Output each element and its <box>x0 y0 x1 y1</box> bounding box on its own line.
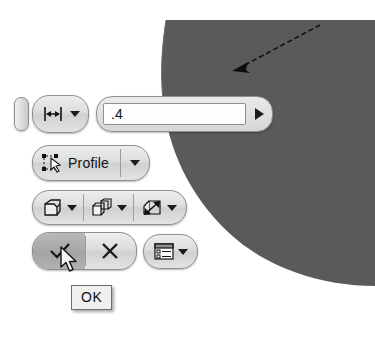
select-profile-icon <box>40 152 64 174</box>
more-options-button[interactable] <box>144 235 197 268</box>
distance-icon <box>41 104 67 124</box>
distance-value-field[interactable]: .4 <box>96 96 273 132</box>
direction-flip-button[interactable] <box>134 191 186 224</box>
profile-select-button[interactable]: Profile <box>33 146 120 180</box>
dialog-options-icon <box>153 242 175 261</box>
distance-value-input[interactable]: .4 <box>103 103 246 125</box>
distance-type-button[interactable] <box>33 96 88 132</box>
profile-row[interactable]: Profile <box>32 145 150 181</box>
distance-row[interactable] <box>32 95 89 133</box>
cross-icon <box>100 242 120 260</box>
chevron-down-icon[interactable] <box>130 160 140 166</box>
solid-body-icon <box>42 198 64 218</box>
profile-dropdown[interactable] <box>121 146 149 180</box>
profile-label: Profile <box>64 155 113 171</box>
checkmark-icon <box>49 242 71 260</box>
drag-handle[interactable] <box>14 97 29 131</box>
more-options-row[interactable] <box>143 234 198 269</box>
cancel-button[interactable] <box>86 233 136 269</box>
boolean-join-icon <box>90 198 114 218</box>
chevron-down-icon[interactable] <box>178 249 188 255</box>
direction-flip-icon <box>140 198 164 218</box>
options-row[interactable] <box>32 190 187 225</box>
chevron-down-icon[interactable] <box>70 111 80 117</box>
solid-output-button[interactable] <box>33 191 83 224</box>
boolean-operation-button[interactable] <box>84 191 133 224</box>
chevron-down-icon[interactable] <box>117 205 127 211</box>
ok-tooltip: OK <box>71 285 112 310</box>
confirm-row[interactable] <box>32 232 137 270</box>
chevron-down-icon[interactable] <box>167 205 177 211</box>
expand-arrow-icon[interactable] <box>246 108 272 120</box>
screen: .4 Profile <box>0 0 375 338</box>
ok-button[interactable] <box>33 233 85 269</box>
chevron-down-icon[interactable] <box>67 205 77 211</box>
